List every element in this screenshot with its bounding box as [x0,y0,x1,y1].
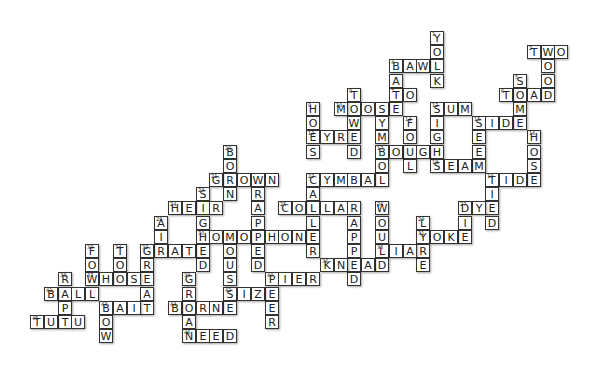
grid-cell[interactable]: W [416,59,430,73]
grid-cell[interactable]: W [99,329,113,343]
grid-cell[interactable]: H [430,145,444,159]
grid-cell[interactable]: O [99,315,113,329]
grid-cell[interactable]: 2T [527,45,541,59]
grid-cell[interactable]: R [154,244,168,258]
grid-cell[interactable]: O [85,258,99,272]
grid-cell[interactable]: 32G [140,244,154,258]
grid-cell[interactable]: L [320,201,334,215]
grid-cell[interactable]: A [334,201,348,215]
grid-cell[interactable]: H [265,230,279,244]
grid-cell[interactable]: O [403,130,417,144]
grid-cell[interactable]: P [58,301,72,315]
grid-cell[interactable]: 46N [182,329,196,343]
grid-cell[interactable]: D [347,272,361,286]
grid-cell[interactable]: L [71,287,85,301]
grid-cell[interactable]: N [209,301,223,315]
grid-cell[interactable]: Y [320,173,334,187]
grid-cell[interactable]: S [306,145,320,159]
grid-cell[interactable]: O [237,230,251,244]
grid-cell[interactable]: O [209,230,223,244]
grid-cell[interactable]: S [223,272,237,286]
grid-cell[interactable]: U [44,315,58,329]
grid-cell[interactable]: L [306,201,320,215]
grid-cell[interactable]: O [375,216,389,230]
grid-cell[interactable]: D [375,258,389,272]
grid-cell[interactable]: O [223,159,237,173]
grid-cell[interactable]: 30H [196,230,210,244]
grid-cell[interactable]: E [196,244,210,258]
grid-cell[interactable]: L [403,159,417,173]
grid-cell[interactable]: E [389,102,403,116]
grid-cell[interactable]: I [430,116,444,130]
grid-cell[interactable]: R [251,187,265,201]
grid-cell[interactable]: E [444,159,458,173]
grid-cell[interactable]: 27D [458,201,472,215]
grid-cell[interactable]: R [265,315,279,329]
grid-cell[interactable]: 15S [472,116,486,130]
grid-cell[interactable]: E [416,258,430,272]
grid-cell[interactable]: Y [320,130,334,144]
grid-cell[interactable]: 7T [389,88,403,102]
grid-cell[interactable]: 9H [306,102,320,116]
grid-cell[interactable]: O [278,230,292,244]
grid-cell[interactable]: E [527,173,541,187]
grid-cell[interactable]: O [513,88,527,102]
grid-cell[interactable]: E [472,130,486,144]
grid-cell[interactable]: 16H [527,130,541,144]
grid-cell[interactable]: D [541,88,555,102]
grid-cell[interactable]: O [541,59,555,73]
grid-cell[interactable]: A [389,74,403,88]
grid-cell[interactable]: U [444,102,458,116]
grid-cell[interactable]: O [182,301,196,315]
grid-cell[interactable]: R [223,173,237,187]
grid-cell[interactable]: W [251,173,265,187]
grid-cell[interactable]: 34T [113,244,127,258]
grid-cell[interactable]: S [127,272,141,286]
grid-cell[interactable]: E [347,258,361,272]
grid-cell[interactable]: O [237,173,251,187]
grid-cell[interactable]: 25C [278,201,292,215]
grid-cell[interactable]: O [292,201,306,215]
grid-cell[interactable]: I [237,287,251,301]
grid-cell[interactable]: L [85,287,99,301]
grid-cell[interactable]: 21G [209,173,223,187]
grid-cell[interactable]: D [485,216,499,230]
grid-cell[interactable]: K [444,230,458,244]
grid-cell[interactable]: W [347,116,361,130]
grid-cell[interactable]: O [113,272,127,286]
grid-cell[interactable]: 5S [513,74,527,88]
grid-cell[interactable]: M [458,102,472,116]
grid-cell[interactable]: U [223,258,237,272]
grid-cell[interactable]: 38R [58,272,72,286]
grid-cell[interactable]: 4B [389,59,403,73]
grid-cell[interactable]: 22C [306,173,320,187]
grid-cell[interactable]: E [472,145,486,159]
grid-cell[interactable]: A [347,216,361,230]
grid-cell[interactable]: O [430,45,444,59]
grid-cell[interactable]: 44B [168,301,182,315]
grid-cell[interactable]: R [209,201,223,215]
grid-cell[interactable]: 36K [320,258,334,272]
grid-cell[interactable]: 28A [154,216,168,230]
grid-cell[interactable]: R [140,258,154,272]
grid-cell[interactable]: 41B [44,287,58,301]
grid-cell[interactable]: U [403,145,417,159]
grid-cell[interactable]: O [306,116,320,130]
grid-cell[interactable]: O [113,258,127,272]
grid-cell[interactable]: A [58,287,72,301]
grid-cell[interactable]: 26W [375,201,389,215]
grid-cell[interactable]: B [347,173,361,187]
grid-cell[interactable]: R [347,201,361,215]
grid-cell[interactable]: 33F [85,244,99,258]
grid-cell[interactable]: A [361,173,375,187]
grid-cell[interactable]: A [403,59,417,73]
grid-cell[interactable]: Z [251,287,265,301]
grid-cell[interactable]: O [554,45,568,59]
grid-cell[interactable]: 1Y [430,31,444,45]
grid-cell[interactable]: O [375,159,389,173]
grid-cell[interactable]: I [127,301,141,315]
grid-cell[interactable]: 18S [430,159,444,173]
grid-cell[interactable]: E [265,287,279,301]
grid-cell[interactable]: E [223,301,237,315]
grid-cell[interactable]: E [347,130,361,144]
